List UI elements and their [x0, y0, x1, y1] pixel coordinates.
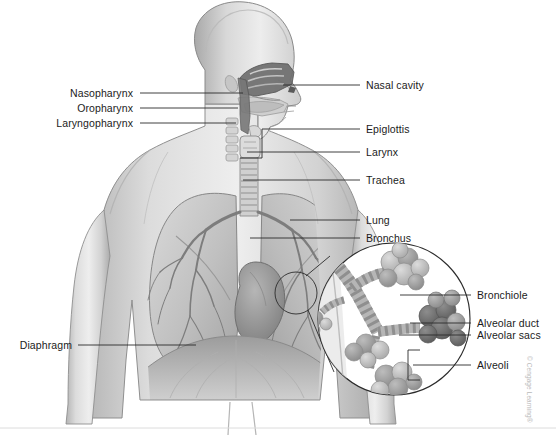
label-epiglottis: Epiglottis — [366, 124, 410, 135]
label-lung: Lung — [366, 215, 390, 226]
label-trachea: Trachea — [366, 175, 405, 186]
label-alveolar-duct: Alveolar duct — [477, 318, 539, 329]
label-laryngopharynx: Laryngopharynx — [0, 118, 133, 129]
label-oropharynx: Oropharynx — [0, 103, 133, 114]
label-nasopharynx: Nasopharynx — [0, 88, 133, 99]
label-larynx: Larynx — [366, 147, 398, 158]
label-bronchiole: Bronchiole — [477, 290, 528, 301]
copyright-credit: © Cengage Learning® — [459, 356, 533, 370]
label-bronchus: Bronchus — [366, 233, 411, 244]
respiratory-system-figure: NasopharynxOropharynxLaryngopharynxDiaph… — [0, 0, 556, 435]
label-alveolar-sacs: Alveolar sacs — [477, 330, 541, 341]
label-nasal-cavity: Nasal cavity — [366, 80, 424, 91]
label-diaphragm: Diaphragm — [0, 340, 72, 351]
